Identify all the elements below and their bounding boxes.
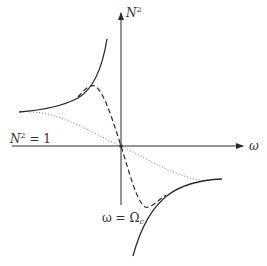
solid-curve-upper-left [19, 39, 107, 112]
origin-point [119, 144, 123, 148]
y-label-base: N [126, 6, 137, 20]
x-label: ω [249, 139, 259, 153]
n-squared-equals-one-label: N2 = 1 [10, 132, 51, 145]
resonance-label-sub: c [139, 217, 143, 226]
resonance-label-text: ω = Ω [102, 211, 139, 225]
y-axis-label: N2 [126, 6, 142, 19]
n-label-rest: = 1 [26, 132, 51, 146]
x-axis-label: ω [249, 140, 259, 152]
solid-curve-lower-right [133, 179, 222, 256]
n-label-base: N [10, 132, 21, 146]
diagram-canvas: N2 ω N2 = 1 ω = Ωc [0, 0, 267, 266]
resonance-label: ω = Ωc [102, 212, 144, 226]
y-label-sup: 2 [137, 5, 142, 14]
